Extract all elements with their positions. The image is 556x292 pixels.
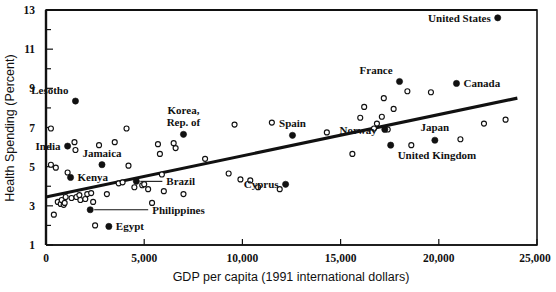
data-point-labeled [382, 126, 388, 132]
data-point-unlabeled [112, 140, 117, 145]
data-point-unlabeled [391, 106, 396, 111]
data-point-labeled [67, 174, 73, 180]
data-point-unlabeled [51, 212, 56, 217]
x-tick-label: 25,000 [519, 252, 551, 264]
point-label-canada: Canada [463, 77, 500, 89]
data-point-unlabeled [358, 115, 363, 120]
data-point-unlabeled [132, 185, 137, 190]
data-point-unlabeled [77, 193, 82, 198]
data-point-unlabeled [104, 192, 109, 197]
chart-canvas: 135791113 05,00010,00015,00020,00025,000… [0, 0, 556, 292]
data-point-unlabeled [89, 191, 94, 196]
data-point-unlabeled [269, 120, 274, 125]
data-point-unlabeled [73, 148, 78, 153]
data-point-labeled [283, 181, 289, 187]
data-point-labeled [289, 132, 295, 138]
y-axis-tick-labels: 135791113 [24, 4, 36, 251]
point-label-korea-rep-of: Korea,Rep. of [167, 104, 201, 128]
data-point-unlabeled [503, 117, 508, 122]
y-tick-label: 7 [29, 122, 35, 134]
data-point-unlabeled [350, 151, 355, 156]
y-axis-title: Health Spending (Percent) [3, 54, 17, 201]
point-label-cyprus: Cyprus [244, 178, 280, 190]
x-tick-label: 5,000 [131, 252, 157, 264]
x-tick-label: 20,000 [423, 252, 455, 264]
data-point-labeled [180, 131, 186, 137]
data-point-unlabeled [181, 192, 186, 197]
data-point-unlabeled [409, 143, 414, 148]
data-point-labeled [388, 142, 394, 148]
x-tick-label: 15,000 [325, 252, 357, 264]
data-point-unlabeled [238, 177, 243, 182]
point-label-lesotho: Lesotho [31, 84, 69, 96]
x-axis-tick-labels: 05,00010,00015,00020,00025,000 [43, 252, 551, 264]
data-point-unlabeled [69, 196, 74, 201]
y-tick-label: 1 [29, 239, 35, 251]
data-point-unlabeled [48, 162, 53, 167]
data-point-unlabeled [83, 196, 88, 201]
point-label-kenya: Kenya [78, 171, 109, 183]
data-point-unlabeled [381, 96, 386, 101]
data-point-unlabeled [226, 171, 231, 176]
y-tick-label: 3 [29, 200, 35, 212]
data-point-unlabeled [161, 189, 166, 194]
x-tick-label: 10,000 [227, 252, 259, 264]
data-point-unlabeled [159, 172, 164, 177]
data-point-unlabeled [93, 223, 98, 228]
data-point-unlabeled [155, 142, 160, 147]
data-point-labels: LesothoIndiaKenyaJamaicaKorea,Rep. ofBra… [31, 12, 500, 233]
data-point-unlabeled [324, 130, 329, 135]
point-label-norway: Norway [340, 124, 378, 136]
y-tick-label: 11 [24, 43, 35, 55]
point-label-brazil: Brazil [166, 175, 195, 187]
data-point-unlabeled [203, 156, 208, 161]
data-point-unlabeled [232, 122, 237, 127]
point-label-india: India [36, 140, 62, 152]
point-label-united-states: United States [428, 12, 491, 24]
data-point-unlabeled [62, 200, 67, 205]
data-point-unlabeled [126, 163, 131, 168]
data-point-unlabeled [157, 151, 162, 156]
point-label-jamaica: Jamaica [82, 147, 122, 159]
data-point-unlabeled [458, 137, 463, 142]
point-label-japan: Japan [420, 121, 449, 133]
data-point-labeled [495, 15, 501, 21]
data-point-unlabeled [72, 140, 77, 145]
data-point-unlabeled [78, 197, 83, 202]
data-point-labeled [65, 143, 71, 149]
data-point-unlabeled [91, 199, 96, 204]
data-point-labeled [99, 162, 105, 168]
point-label-philippines: Philippines [152, 204, 205, 216]
data-point-unlabeled [379, 114, 384, 119]
data-point-labeled [453, 80, 459, 86]
x-axis-title: GDP per capita (1991 international dolla… [173, 270, 410, 284]
data-point-unlabeled [146, 187, 151, 192]
y-tick-label: 13 [24, 4, 36, 16]
data-point-unlabeled [120, 180, 125, 185]
data-point-unlabeled [405, 89, 410, 94]
data-point-labeled [133, 178, 139, 184]
data-point-labeled [106, 223, 112, 229]
y-tick-label: 5 [29, 161, 35, 173]
data-point-unlabeled [53, 165, 58, 170]
data-point-unlabeled [428, 90, 433, 95]
data-point-labeled [432, 137, 438, 143]
point-label-united-kingdom: United Kingdom [398, 149, 477, 161]
data-point-unlabeled [173, 146, 178, 151]
data-point-labeled [72, 98, 78, 104]
data-point-unlabeled [124, 126, 129, 131]
point-label-france: France [360, 64, 393, 76]
scatter-chart-figure: 135791113 05,00010,00015,00020,00025,000… [0, 0, 556, 292]
data-point-labeled [396, 78, 402, 84]
x-tick-label: 0 [43, 252, 49, 264]
point-label-spain: Spain [279, 117, 306, 129]
data-point-unlabeled [63, 195, 68, 200]
data-point-unlabeled [481, 121, 486, 126]
point-label-egypt: Egypt [116, 220, 144, 232]
data-point-unlabeled [362, 104, 367, 109]
data-point-unlabeled [142, 182, 147, 187]
data-point-unlabeled [171, 141, 176, 146]
data-point-labeled [87, 207, 93, 213]
data-point-unlabeled [48, 126, 53, 131]
